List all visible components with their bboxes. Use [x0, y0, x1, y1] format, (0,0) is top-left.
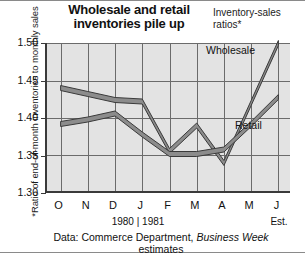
source-suffix: estimates [139, 243, 184, 255]
source-publication: Business Week [196, 231, 268, 243]
x-axis-tick-label: A [212, 199, 232, 211]
x-axis-tick-label: J [130, 199, 150, 211]
series-label-wholesale: Wholesale [206, 44, 255, 56]
chart-subtitle-line-1: Inventory-sales [213, 7, 305, 19]
plot-area [45, 43, 290, 193]
top-rule [0, 0, 305, 1]
y-axis-tick-label: 1.45 [4, 74, 38, 86]
chart-subtitle: Inventory-sales ratios* [213, 7, 305, 31]
source-note: Data: Commerce Department, Business Week… [30, 231, 292, 255]
year-span-label: 1980 | 1981 [78, 216, 198, 227]
series-label-retail: Retail [235, 119, 262, 131]
y-axis-tick-label: 1.35 [4, 149, 38, 161]
chart-title: Wholesale and retail inventories pile up [44, 3, 214, 31]
series-layer [47, 43, 292, 193]
y-axis-tick-label: 1.40 [4, 111, 38, 123]
estimate-label: Est. [262, 216, 296, 227]
x-axis-tick-label: O [49, 199, 69, 211]
source-prefix: Data: Commerce Department, [53, 231, 196, 243]
x-axis-tick-label: J [266, 199, 286, 211]
series-ribbon-wholesale [61, 41, 279, 166]
x-axis-tick-label: M [185, 199, 205, 211]
chart-title-line-1: Wholesale and retail [44, 3, 214, 17]
x-axis-tick-label: D [103, 199, 123, 211]
chart-subtitle-line-2: ratios* [213, 19, 305, 31]
x-axis-tick-label: F [158, 199, 178, 211]
x-axis-tick-label: M [239, 199, 259, 211]
y-axis-tick-mark [41, 193, 46, 194]
chart-title-line-2: inventories pile up [44, 17, 214, 31]
y-axis-tick-label: 1.30 [4, 186, 38, 198]
chart-figure: *Ratio of end-of-month inventories to mo… [0, 0, 305, 260]
y-axis-tick-label: 1.50 [4, 36, 38, 48]
x-axis-tick-label: N [76, 199, 96, 211]
